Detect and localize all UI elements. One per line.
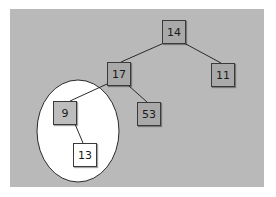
tree-node-53: 53 <box>137 102 161 126</box>
node-label: 17 <box>112 68 126 81</box>
tree-node-9: 9 <box>53 101 77 125</box>
tree-node-11: 11 <box>211 63 235 87</box>
tree-node-13: 13 <box>73 143 97 167</box>
edge-14-11 <box>184 43 221 63</box>
edge-14-17 <box>121 43 164 62</box>
node-label: 13 <box>78 149 92 162</box>
tree-node-17: 17 <box>107 62 131 86</box>
node-label: 14 <box>167 26 181 39</box>
tree-node-14: 14 <box>162 20 186 44</box>
tree-edges <box>0 0 276 197</box>
edge-17-53 <box>129 86 147 102</box>
node-label: 53 <box>142 108 156 121</box>
node-label: 11 <box>216 69 230 82</box>
node-label: 9 <box>62 107 69 120</box>
